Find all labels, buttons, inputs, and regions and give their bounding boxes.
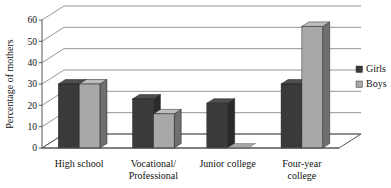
gridline-depth-connector (42, 27, 64, 41)
bar-boys-1-side (100, 80, 107, 148)
legend-group: GirlsBoys (356, 63, 387, 89)
y-axis-title: Percentage of mothers (4, 39, 15, 129)
category-label: Professional (129, 170, 179, 181)
legend-swatch-boys (356, 81, 363, 88)
y-tick-label: 10 (28, 122, 38, 132)
bar-boys-1 (79, 84, 100, 148)
y-tick-label: 20 (28, 101, 38, 111)
gridline-depth-connector (42, 70, 64, 84)
category-label: Vocational/ (131, 158, 177, 169)
bar-boys-4-side (323, 22, 330, 148)
legend-label-girls: Girls (366, 63, 386, 74)
chart-canvas: 0102030405060High schoolVocational/Profe… (0, 0, 391, 188)
bar-girls-2 (133, 99, 154, 148)
bar-boys-4 (302, 26, 323, 148)
gridline-depth-connector (42, 6, 64, 20)
legend-swatch-girls (356, 66, 363, 73)
legend-label-boys: Boys (366, 78, 387, 89)
bar-girls-3-side (228, 99, 235, 148)
y-tick-label: 50 (28, 37, 38, 47)
bars-group (58, 22, 329, 148)
bar-girls-4 (281, 84, 302, 148)
bar-chart: 0102030405060High schoolVocational/Profe… (0, 0, 391, 188)
category-label: Four-year (282, 158, 322, 169)
category-label: High school (55, 158, 104, 169)
y-tick-label: 40 (28, 58, 38, 68)
y-tick-label: 0 (32, 143, 37, 153)
y-tick-label: 60 (28, 15, 38, 25)
category-label: college (287, 170, 316, 181)
category-labels-group: High schoolVocational/ProfessionalJunior… (55, 158, 322, 181)
gridline-depth-connector (42, 49, 64, 63)
bar-girls-3 (207, 103, 228, 148)
category-label: Junior college (199, 158, 256, 169)
bar-boys-2 (153, 114, 174, 148)
bar-girls-1 (58, 84, 79, 148)
y-tick-labels-group: 0102030405060 (28, 15, 38, 153)
bar-boys-2-side (174, 109, 181, 148)
y-tick-label: 30 (28, 79, 38, 89)
